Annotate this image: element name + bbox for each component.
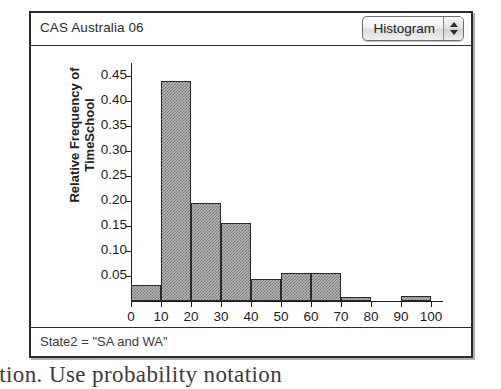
x-axis-tickmark	[281, 302, 282, 307]
stats-plot-window: CAS Australia 06 Histogram Relative Freq…	[29, 11, 473, 358]
y-axis-tick-label: 0.35	[101, 117, 127, 132]
histogram-bar[interactable]	[311, 273, 341, 302]
y-axis-tick-label: 0.45	[101, 67, 127, 82]
x-axis-tickmark	[311, 302, 312, 307]
x-axis-tickmark	[131, 302, 132, 307]
x-axis-tickmark	[371, 302, 372, 307]
plot-type-dropdown[interactable]: Histogram	[362, 16, 464, 41]
x-axis-tick-label: 40	[243, 309, 258, 324]
x-axis-tick-label: 20	[183, 309, 198, 324]
window-title: CAS Australia 06	[40, 20, 144, 35]
histogram-bar[interactable]	[191, 203, 221, 302]
histogram-bar[interactable]	[161, 81, 191, 301]
y-axis-tick-label: 0.05	[101, 267, 127, 282]
histogram-plot[interactable]: Relative Frequency of TimeSchool 0.050.1…	[31, 46, 471, 327]
window-titlebar: CAS Australia 06 Histogram	[31, 13, 471, 46]
x-axis-tickmark	[191, 302, 192, 307]
x-axis-tickmark	[431, 302, 432, 307]
screen: CAS Australia 06 Histogram Relative Freq…	[0, 0, 501, 389]
plot-type-dropdown-stepper[interactable]	[443, 17, 463, 40]
window-statusbar: State2 = "SA and WA"	[31, 327, 471, 356]
x-axis-tick-label: 60	[303, 309, 318, 324]
y-axis-tick-label: 0.25	[101, 167, 127, 182]
x-axis-line	[131, 301, 443, 302]
x-axis-tickmark	[251, 302, 252, 307]
x-axis-tick-label: 80	[363, 309, 378, 324]
y-axis-tick-label: 0.30	[101, 142, 127, 157]
x-axis-tickmark	[401, 302, 402, 307]
y-axis-line	[131, 63, 132, 301]
x-axis-tick-label: 100	[420, 309, 443, 324]
x-axis-tickmark	[341, 302, 342, 307]
y-axis-tick-label: 0.15	[101, 217, 127, 232]
x-axis-tick-label: 30	[213, 309, 228, 324]
x-axis-tick-label: 50	[273, 309, 288, 324]
histogram-bar[interactable]	[281, 273, 311, 302]
y-axis-tick-label: 0.10	[101, 242, 127, 257]
plot-type-dropdown-label: Histogram	[363, 17, 443, 40]
y-axis-tick-labels: 0.050.100.150.200.250.300.350.400.45	[65, 46, 127, 327]
arrow-up-icon	[450, 22, 458, 27]
x-axis-tick-label: 10	[153, 309, 168, 324]
background-document-text: ection. Use probability notation	[0, 362, 282, 388]
histogram-bar[interactable]	[401, 296, 431, 301]
y-axis-tick-label: 0.40	[101, 92, 127, 107]
histogram-bar[interactable]	[341, 297, 371, 301]
x-axis-tickmark	[161, 302, 162, 307]
histogram-bar[interactable]	[251, 279, 281, 301]
status-filter-text: State2 = "SA and WA"	[40, 334, 168, 349]
x-axis-tickmark	[221, 302, 222, 307]
histogram-bar[interactable]	[221, 223, 251, 302]
histogram-bar[interactable]	[131, 285, 161, 302]
y-axis-tick-label: 0.20	[101, 192, 127, 207]
x-axis-tick-label: 70	[333, 309, 348, 324]
arrow-down-icon	[450, 30, 458, 35]
x-axis-tick-label: 90	[393, 309, 408, 324]
x-axis-tick-label: 0	[127, 309, 135, 324]
